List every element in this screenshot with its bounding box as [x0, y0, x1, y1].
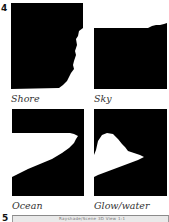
next-figure-number: 5: [2, 214, 8, 222]
ocean-label: Ocean: [12, 201, 43, 211]
glow-water-mask-image: [94, 109, 167, 196]
glow-water-label: Glow/water: [94, 201, 149, 211]
sky-mask-image: [94, 22, 167, 89]
shore-mask-image: [11, 3, 84, 89]
next-figure-window-strip: Rayshade/Scene 3D View 1:1: [12, 215, 169, 222]
ocean-mask-image: [12, 109, 84, 196]
figure-number: 4: [1, 4, 7, 13]
sky-label: Sky: [94, 94, 112, 104]
next-figure-strip-text: Rayshade/Scene 3D View 1:1: [59, 216, 125, 221]
shore-label: Shore: [11, 94, 40, 104]
